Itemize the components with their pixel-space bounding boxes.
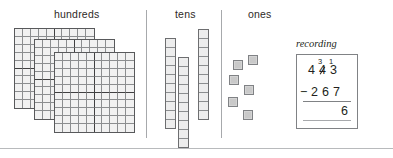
hundreds-flat-cell [110,93,118,101]
hundreds-flat-cell [43,95,51,103]
tens-rod-unit [179,130,188,139]
tens-rod-unit [199,57,208,66]
hundreds-flat-cell [82,40,90,48]
hundreds-flat-cell [55,29,63,37]
hundreds-flat-cell [15,37,23,45]
hundreds-flat-cell [102,124,110,132]
hundreds-flat-cell [79,93,87,101]
hundreds-flat-cell [118,53,126,61]
hundreds-flat-cell [71,100,79,108]
hundreds-flat-cell [102,61,110,69]
hundreds-flat-cell [55,53,63,61]
column-label-hundreds: hundreds [54,8,99,20]
minuend-digit: 4 [306,63,317,77]
tens-rod-unit [166,48,175,57]
tens-rod-unit [179,76,188,85]
hundreds-flat-cell [102,100,110,108]
hundreds-flat-cell [43,48,51,56]
tens-rod-unit [166,120,175,128]
hundreds-flat-cell [79,116,87,124]
hundreds-flat-cell [110,53,118,61]
hundreds-flat-cell [95,77,103,85]
hundreds-flat-cell [15,92,23,100]
hundreds-flat-cell [70,29,78,37]
subtrahend-digit: 6 [320,85,331,99]
minuend-row: 443 [306,63,339,77]
hundreds-flat-cell [87,100,95,108]
hundreds-flat-cell [118,77,126,85]
tens-rod-unit [166,57,175,66]
hundreds-flat-cell [35,111,43,119]
hundreds-flat-cell [95,53,103,61]
hundreds-flat-cell [51,40,59,48]
hundreds-flat-cell [79,85,87,93]
hundreds-flat-cell [23,100,31,108]
column-label-ones: ones [248,8,272,20]
tens-rod [165,38,176,129]
hundreds-flat-cell [55,93,63,101]
tens-rod-unit [166,102,175,111]
hundreds-flat-cell [126,124,134,132]
hundreds-flat-cell [87,69,95,77]
column-divider-hundreds-tens [146,10,147,138]
hundreds-flat-cell [126,53,134,61]
hundreds-flat-cell [23,69,31,77]
tens-rod-unit [166,111,175,120]
tens-rod-unit [199,93,208,102]
subtrahend-digit: 7 [331,85,342,99]
hundreds-flat-cell [87,61,95,69]
tens-rod-unit [199,84,208,93]
hundreds-flat-cell [79,77,87,85]
hundreds-flat-cell [110,124,118,132]
ones-unit-cube [228,97,238,107]
hundreds-flat-cell [126,108,134,116]
hundreds-flat-cell [78,29,86,37]
hundreds-flat-cell [35,72,43,80]
ones-unit-cube [229,75,239,85]
hundreds-flat-cell [110,116,118,124]
hundreds-flat-cell [110,100,118,108]
hundreds-flat-cell [98,40,106,48]
hundreds-flat-cell [71,85,79,93]
hundreds-flat-cell [23,76,31,84]
hundreds-flat-cell [102,85,110,93]
hundreds-flat-cell [59,40,67,48]
hundreds-flat-cell [95,61,103,69]
hundreds-flat-cell [102,77,110,85]
hundreds-flat-cell [63,61,71,69]
hundreds-flat-cell [55,116,63,124]
hundreds-flat-cell [126,69,134,77]
hundreds-flat-cell [63,85,71,93]
hundreds-flat-cell [95,93,103,101]
hundreds-flat-cell [95,124,103,132]
tens-rod-unit [179,85,188,94]
difference-row: 6 [300,104,348,118]
hundreds-flat-cell [118,108,126,116]
tens-rod-unit [166,93,175,102]
hundreds-flat-cell [63,124,71,132]
hundreds-flat-cell [15,100,23,108]
hundreds-flat-cell [95,85,103,93]
hundreds-flat-cell [126,93,134,101]
hundreds-flat-cell [43,111,51,119]
tens-rod-unit [199,75,208,84]
hundreds-flat-cell [102,53,110,61]
hundreds-flat-cell [39,29,47,37]
hundreds-flat-cell [15,84,23,92]
hundreds-flat-cell [102,93,110,101]
hundreds-flat-cell [55,108,63,116]
hundreds-flat-cell [35,80,43,88]
hundreds-flat-cell [35,64,43,72]
hundreds-flat-cell [126,85,134,93]
ones-unit-cube [244,85,254,95]
hundreds-flat-cell [15,29,23,37]
hundreds-flat-cell [63,116,71,124]
hundreds-flat-cell [71,69,79,77]
tens-rod-unit [199,102,208,111]
ones-unit-cube [248,55,258,65]
hundreds-flat-cell [63,108,71,116]
hundreds-flat-cell [55,100,63,108]
hundreds-flat-cell [35,40,43,48]
hundreds-flat-cell [71,93,79,101]
hundreds-flat-cell [71,77,79,85]
